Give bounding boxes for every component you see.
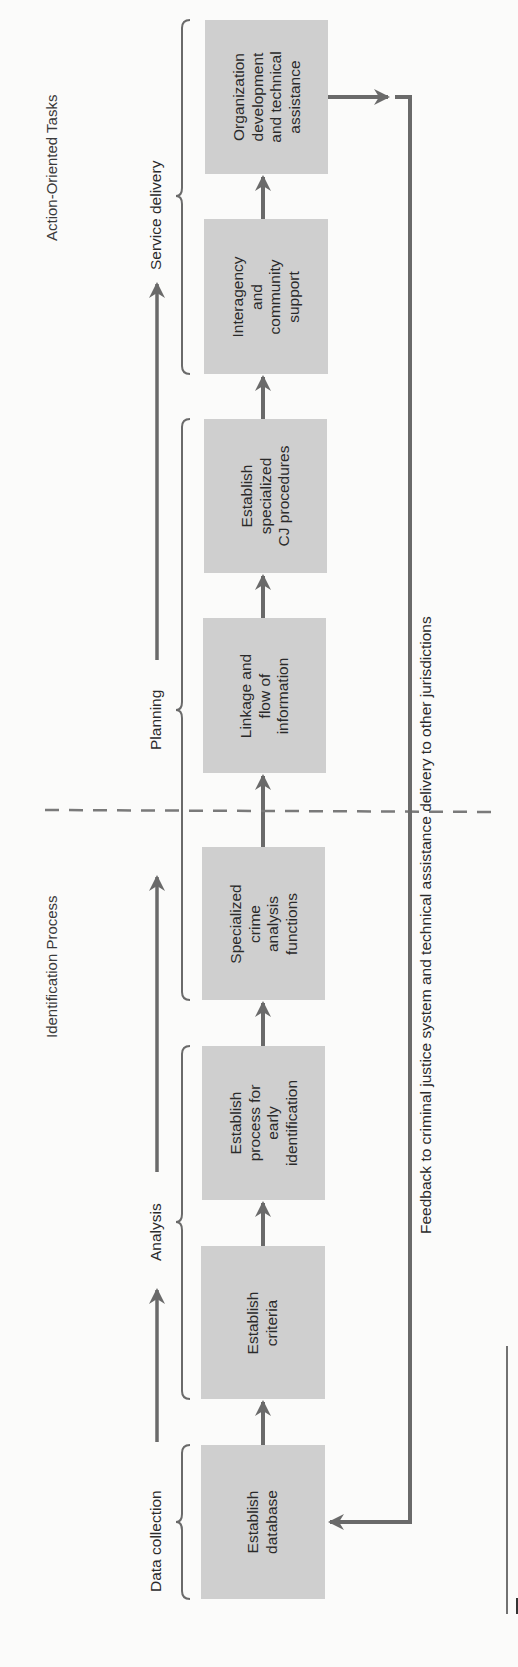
step-label: Establish process for early identificati… [226,1048,300,1198]
step-label: Establish criteria [244,1248,281,1398]
section-title-identification: Identification Process [44,895,59,1038]
section-title-action: Action-Oriented Tasks [44,95,59,241]
step-box-cj-procedures: Establish specialized CJ procedures [204,419,327,573]
step-label: Interagency and community support [229,222,303,372]
step-box-establish-criteria: Establish criteria [201,1246,325,1399]
step-box-crime-analysis: Specialized crime analysis functions [202,847,325,1000]
step-label: Linkage and flow of information [237,621,293,771]
step-label: Establish specialized CJ procedures [238,421,294,571]
step-box-establish-database: Establish database [201,1445,325,1599]
feedback-label: Feedback to criminal justice system and … [418,616,434,1234]
step-box-organization-development: Organization development and technical a… [205,20,328,174]
step-box-interagency-support: Interagency and community support [204,219,328,374]
step-box-linkage-information: Linkage and flow of information [203,618,326,773]
step-label: Establish database [244,1447,281,1597]
step-label: Specialized crime analysis functions [226,849,300,999]
phase-label-service-delivery: Service delivery [148,161,164,270]
flow-diagram: Identification Process Action-Oriented T… [0,0,518,1667]
step-label: Organization development and technical a… [229,22,303,172]
step-box-early-identification: Establish process for early identificati… [202,1046,325,1200]
phase-label-data-collection: Data collection [148,1490,164,1592]
feedback-loop [328,97,410,1522]
phase-label-planning: Planning [148,690,164,750]
phase-label-analysis: Analysis [148,1203,164,1261]
